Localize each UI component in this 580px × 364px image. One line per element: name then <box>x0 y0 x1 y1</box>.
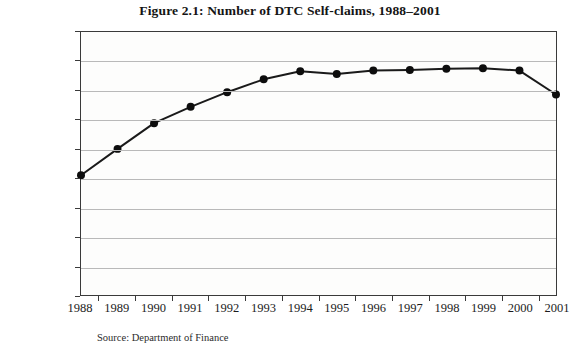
y-axis-tick-mark <box>75 90 80 91</box>
x-axis-tick-label: 1997 <box>398 301 423 316</box>
gridline <box>81 120 556 121</box>
y-axis-tick-mark <box>75 60 80 61</box>
x-axis-tick-label: 1996 <box>361 301 386 316</box>
data-point-marker <box>260 75 268 83</box>
gridline <box>81 238 556 239</box>
x-axis-tick-mark <box>319 296 320 301</box>
x-axis-tick-mark <box>429 296 430 301</box>
x-axis-tick-label: 1991 <box>178 301 203 316</box>
x-axis-tick-mark <box>208 296 209 301</box>
data-point-marker <box>333 70 341 78</box>
y-axis-tick-mark <box>75 208 80 209</box>
data-point-marker <box>369 67 377 75</box>
source-note: Source: Department of Finance <box>97 332 229 343</box>
x-axis-tick-label: 1993 <box>251 301 276 316</box>
x-axis-tick-mark <box>355 296 356 301</box>
x-axis-tick-mark <box>465 296 466 301</box>
x-axis-tick-label: 1995 <box>324 301 349 316</box>
plot-area <box>80 31 557 296</box>
gridline <box>81 61 556 62</box>
data-point-marker <box>187 103 195 111</box>
x-axis-tick-label: 1988 <box>68 301 93 316</box>
x-axis-tick-mark <box>98 296 99 301</box>
x-axis-tick-label: 1992 <box>214 301 239 316</box>
data-point-marker <box>442 65 450 73</box>
x-axis-tick-label: 1998 <box>434 301 459 316</box>
data-point-marker <box>296 67 304 75</box>
y-axis-tick-mark <box>75 178 80 179</box>
chart-title: Figure 2.1: Number of DTC Self-claims, 1… <box>0 3 580 19</box>
x-axis-tick-label: 2001 <box>545 301 570 316</box>
y-axis-tick-mark <box>75 31 80 32</box>
x-axis-tick-mark <box>245 296 246 301</box>
gridline <box>81 268 556 269</box>
gridline <box>81 179 556 180</box>
y-axis-tick-mark <box>75 119 80 120</box>
x-axis-tick-label: 1999 <box>471 301 496 316</box>
x-axis-tick-mark <box>539 296 540 301</box>
data-point-marker <box>223 88 231 96</box>
x-axis-tick-label: 1989 <box>104 301 129 316</box>
data-point-marker <box>515 67 523 75</box>
gridline <box>81 91 556 92</box>
y-axis-tick-mark <box>75 296 80 297</box>
x-axis-tick-label: 2000 <box>508 301 533 316</box>
y-axis-tick-mark <box>75 267 80 268</box>
x-axis-tick-mark <box>502 296 503 301</box>
y-axis-tick-mark <box>75 149 80 150</box>
gridline <box>81 209 556 210</box>
x-axis-tick-mark <box>135 296 136 301</box>
data-point-marker <box>406 66 414 74</box>
data-point-marker <box>479 64 487 72</box>
x-axis-tick-mark <box>172 296 173 301</box>
x-axis-tick-label: 1990 <box>141 301 166 316</box>
x-axis-tick-mark <box>392 296 393 301</box>
x-axis-tick-label: 1994 <box>288 301 313 316</box>
figure-container: Figure 2.1: Number of DTC Self-claims, 1… <box>0 0 580 364</box>
gridline <box>81 150 556 151</box>
line-series-svg <box>81 32 556 295</box>
x-axis-tick-mark <box>282 296 283 301</box>
y-axis-tick-mark <box>75 237 80 238</box>
